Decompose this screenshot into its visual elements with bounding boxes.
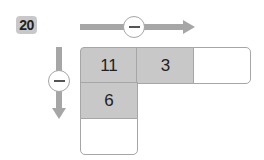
horizontal-minus-operator <box>123 16 145 38</box>
answer-cell-horizontal[interactable] <box>193 47 251 84</box>
vertical-minus-operator <box>48 70 70 92</box>
answer-cell-vertical[interactable] <box>80 118 138 155</box>
right-arrow-icon <box>183 20 195 34</box>
minus-icon <box>54 80 65 82</box>
cell-row1-2: 3 <box>136 47 195 84</box>
minus-icon <box>129 26 140 28</box>
cell-col1-2: 6 <box>80 82 138 120</box>
problem-number-badge: 20 <box>16 16 37 34</box>
down-arrow-icon <box>52 108 66 119</box>
cell-start: 11 <box>80 47 138 84</box>
